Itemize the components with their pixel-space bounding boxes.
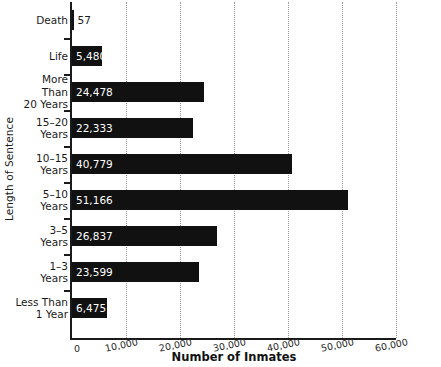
y-axis-label-line: More Than	[14, 73, 68, 98]
bar	[72, 190, 348, 210]
chart-row: 5–10Years51,166	[0, 182, 441, 218]
bar-value-label: 5,480	[76, 46, 106, 66]
chart-row: Less Than1 Year6,475	[0, 290, 441, 326]
y-axis-label-line: Life	[49, 50, 68, 63]
x-axis-title: Number of Inmates	[72, 350, 396, 364]
y-axis-label-line: Death	[36, 14, 68, 27]
y-axis-label-line: Years	[40, 200, 68, 213]
y-axis-tick	[64, 74, 71, 76]
bar-chart: Length of Sentence Death57Life5,480More …	[0, 0, 441, 367]
y-axis-label: More Than20 Years	[14, 74, 68, 110]
bar-value-label: 26,837	[76, 226, 113, 246]
y-axis-label: Death	[14, 2, 68, 38]
chart-row: 10–15Years40,779	[0, 146, 441, 182]
y-axis-label-line: 20 Years	[24, 98, 68, 111]
chart-row: Death57	[0, 2, 441, 38]
chart-row: 15–20Years22,333	[0, 110, 441, 146]
y-axis-label-line: 5–10	[43, 188, 68, 201]
y-axis-label: Life	[14, 38, 68, 74]
y-axis-label-line: 1–3	[49, 260, 68, 273]
bar-value-label: 22,333	[76, 118, 113, 138]
y-axis-label: 1–3Years	[14, 254, 68, 290]
bar-value-label: 23,599	[76, 262, 113, 282]
y-axis-label: 15–20Years	[14, 110, 68, 146]
y-axis-label-line: Years	[40, 272, 68, 285]
y-axis-label-line: Years	[40, 128, 68, 141]
y-axis-label-line: 1 Year	[36, 308, 68, 321]
y-axis-label-line: Years	[40, 236, 68, 249]
y-axis-label: 10–15Years	[14, 146, 68, 182]
y-axis-tick	[64, 218, 71, 220]
y-axis-tick	[64, 146, 71, 148]
bar-value-label: 6,475	[76, 298, 106, 318]
y-axis-tick	[64, 110, 71, 112]
y-axis-label-line: Years	[40, 164, 68, 177]
bar-value-label: 40,779	[76, 154, 113, 174]
y-axis-label: 5–10Years	[14, 182, 68, 218]
bar-value-label: 51,166	[76, 190, 113, 210]
y-axis-tick	[64, 182, 71, 184]
chart-row: 3–5Years26,837	[0, 218, 441, 254]
y-axis-label-line: 15–20	[36, 116, 68, 129]
chart-row: More Than20 Years24,478	[0, 74, 441, 110]
y-axis-label: 3–5Years	[14, 218, 68, 254]
y-axis-label-line: 3–5	[49, 224, 68, 237]
y-axis-tick	[64, 38, 71, 40]
bar	[72, 10, 74, 30]
y-axis-label-line: Less Than	[15, 296, 68, 309]
bar-value-label: 57	[78, 10, 91, 30]
y-axis-label: Less Than1 Year	[14, 290, 68, 326]
chart-row: Life5,480	[0, 38, 441, 74]
y-axis-tick	[64, 290, 71, 292]
y-axis-label-line: 10–15	[36, 152, 68, 165]
chart-row: 1–3Years23,599	[0, 254, 441, 290]
bar-value-label: 24,478	[76, 82, 113, 102]
y-axis-tick	[64, 254, 71, 256]
